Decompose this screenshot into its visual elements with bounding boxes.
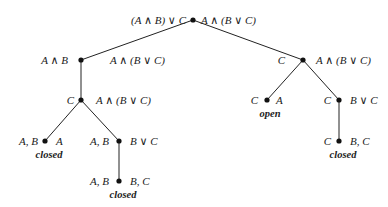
- node-n6-right-label: B, C: [130, 175, 150, 187]
- node-n3-right-label: A ∧ (B ∨ C): [96, 94, 151, 106]
- node-n1-right-label: A ∧ (B ∨ C): [110, 54, 165, 66]
- node-n9-right-label: B, C: [350, 135, 370, 147]
- node-n9-left-label: C: [324, 135, 331, 147]
- node-dot-n3: [78, 97, 83, 102]
- node-n4-left-label: A, B: [19, 135, 38, 147]
- edge-n2-n8: [303, 60, 339, 100]
- node-dot-n5: [116, 138, 121, 143]
- node-dot-n4: [42, 138, 47, 143]
- node-n7-left-label: C: [251, 94, 258, 106]
- node-n9-status: closed: [330, 149, 357, 160]
- node-root-right-label: A ∧ (B ∨ C): [201, 14, 256, 26]
- node-dot-n1: [78, 57, 83, 62]
- node-dot-root: [190, 17, 195, 22]
- node-n4-status: closed: [36, 149, 63, 160]
- node-n6-left-label: A, B: [90, 175, 109, 187]
- node-n7-right-label: A: [276, 94, 283, 106]
- node-dot-n9: [336, 138, 341, 143]
- node-n8-right-label: B ∨ C: [350, 94, 378, 106]
- edge-root-n2: [193, 20, 303, 60]
- edge-n2-n7: [267, 60, 303, 100]
- node-dot-n2: [300, 57, 305, 62]
- node-n2-right-label: A ∧ (B ∨ C): [316, 54, 371, 66]
- node-root-left-label: (A ∧ B) ∨ C: [131, 14, 186, 26]
- node-n6-status: closed: [110, 189, 137, 200]
- node-n8-left-label: C: [324, 94, 331, 106]
- node-n7-status: open: [260, 108, 281, 119]
- node-n5-right-label: B ∨ C: [130, 135, 158, 147]
- node-n1-left-label: A ∧ B: [41, 54, 68, 66]
- node-n2-left-label: C: [278, 54, 285, 66]
- node-dot-n6: [116, 178, 121, 183]
- node-dot-n8: [336, 97, 341, 102]
- node-n5-left-label: A, B: [90, 135, 109, 147]
- node-n3-left-label: C: [67, 94, 74, 106]
- node-dot-n7: [264, 97, 269, 102]
- edge-n3-n4: [45, 100, 81, 141]
- node-n4-right-label: A: [56, 135, 63, 147]
